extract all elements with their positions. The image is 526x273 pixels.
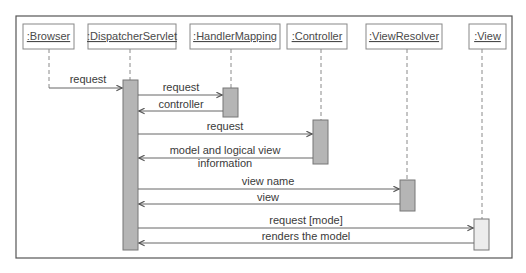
message-label: request — [163, 81, 200, 93]
message-label-continued: information — [198, 157, 252, 169]
diagram-frame — [16, 16, 512, 258]
message-label: view name — [242, 175, 295, 187]
participant-label: :ViewResolver — [369, 30, 439, 42]
participant-view: :View — [469, 24, 506, 49]
activation-resolver — [400, 180, 415, 211]
participant-controller: :Controller — [287, 24, 347, 49]
participant-label: :View — [474, 30, 501, 42]
participant-browser: :Browser — [23, 24, 74, 49]
activation-handler — [223, 88, 238, 117]
message-label: request — [70, 73, 107, 85]
activation-controller — [313, 120, 328, 164]
message-label: model and logical view — [170, 144, 281, 156]
participant-label: :HandlerMapping — [193, 30, 277, 42]
participant-label: :Controller — [292, 30, 343, 42]
message-label: request — [207, 120, 244, 132]
participant-dispatcher-servlet: :DispatcherServlet — [87, 24, 177, 49]
participant-view-resolver: :ViewResolver — [366, 24, 442, 49]
message-label: view — [257, 191, 279, 203]
message-label: controller — [158, 98, 204, 110]
participant-label: :DispatcherServlet — [87, 30, 177, 42]
participant-handler-mapping: :HandlerMapping — [190, 24, 280, 49]
message-label: renders the model — [262, 230, 351, 242]
activation-view — [474, 219, 489, 250]
participant-label: :Browser — [27, 30, 71, 42]
message-label: request [mode] — [269, 214, 342, 226]
activation-dispatcher — [123, 80, 138, 250]
sequence-diagram: :Browser :DispatcherServlet :HandlerMapp… — [0, 0, 526, 273]
